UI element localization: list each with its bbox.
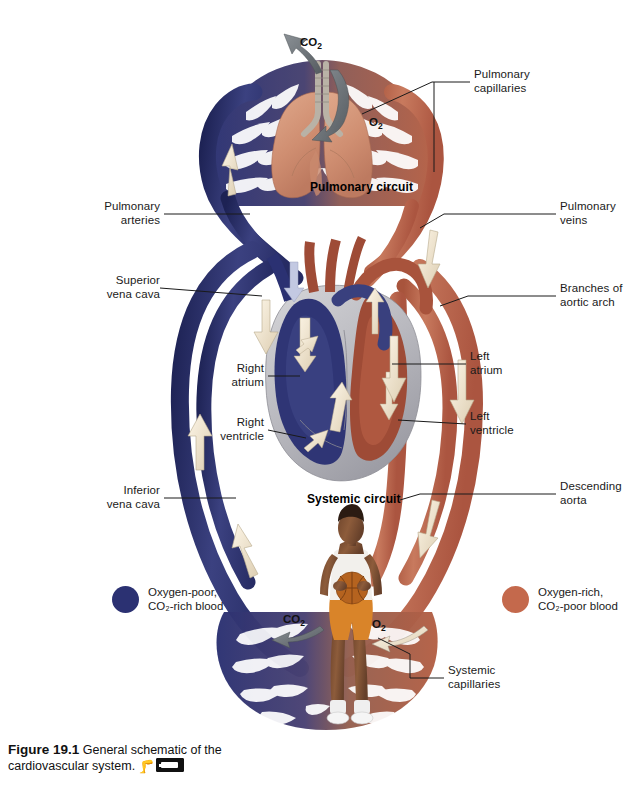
legend-oxygen-rich: Oxygen-rich, CO₂-poor blood <box>502 586 618 613</box>
label-left-ventricle: Left ventricle <box>470 410 514 437</box>
heart-illustration <box>266 238 427 481</box>
o2-pulmonary-label: O2 <box>369 116 383 131</box>
label-left-atrium: Left atrium <box>470 350 503 377</box>
label-inferior-vena-cava: Inferior vena cava <box>60 484 160 511</box>
label-systemic-capillaries: Systemic capillaries <box>448 664 500 691</box>
running-figure-icon: 🦵 <box>138 759 154 775</box>
label-superior-vena-cava: Superior vena cava <box>60 274 160 301</box>
co2-pulmonary-label: CO2 <box>300 36 322 51</box>
label-right-ventricle: Right ventricle <box>190 416 264 443</box>
co2-systemic-label: CO2 <box>283 613 305 628</box>
legend-swatch-oxygenated <box>502 586 529 613</box>
figure-caption: Figure 19.1 General schematic of the car… <box>8 742 308 775</box>
figure-19-1: CO2 O2 CO2 O2 Pulmonary circuit Systemic… <box>0 0 644 801</box>
video-media-icon[interactable] <box>156 758 184 772</box>
pulmonary-circuit-label: Pulmonary circuit <box>310 180 413 194</box>
legend-oxygen-rich-text: Oxygen-rich, CO₂-poor blood <box>538 586 618 613</box>
legend-oxygen-poor: Oxygen-poor, CO₂-rich blood <box>112 586 223 613</box>
label-pulmonary-capillaries: Pulmonary capillaries <box>474 68 530 95</box>
label-pulmonary-veins: Pulmonary veins <box>560 200 616 227</box>
figure-number: Figure 19.1 <box>8 742 79 757</box>
figure-caption-line2: cardiovascular system. <box>8 759 135 773</box>
o2-systemic-label: O2 <box>372 618 386 633</box>
legend-oxygen-poor-text: Oxygen-poor, CO₂-rich blood <box>148 586 223 613</box>
label-pulmonary-arteries: Pulmonary arteries <box>64 200 160 227</box>
cardiovascular-schematic-illustration <box>0 0 644 801</box>
label-descending-aorta: Descending aorta <box>560 480 622 507</box>
figure-caption-line1: General schematic of the <box>83 743 222 757</box>
label-right-atrium: Right atrium <box>196 362 264 389</box>
systemic-capillary-bed <box>217 612 438 730</box>
legend-swatch-deoxygenated <box>112 586 139 613</box>
systemic-circuit-label: Systemic circuit <box>307 492 401 506</box>
label-branches-of-aortic-arch: Branches of aortic arch <box>560 282 622 309</box>
